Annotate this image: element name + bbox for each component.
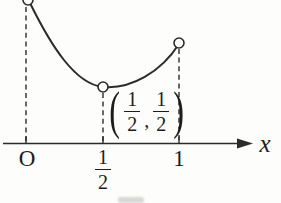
open-point-left-endpoint bbox=[23, 0, 33, 5]
close-paren: ) bbox=[174, 88, 185, 135]
tick-half-fraction: 1 2 bbox=[95, 147, 111, 192]
tick-label-one: 1 bbox=[169, 147, 189, 170]
point-y-numerator: 1 bbox=[153, 89, 169, 112]
point-y-denominator: 2 bbox=[156, 112, 166, 134]
function-graph-figure: O 1 2 1 x ( 1 2 , 1 2 ) bbox=[0, 0, 281, 203]
open-paren: ( bbox=[109, 88, 120, 135]
point-x-fraction: 1 2 bbox=[124, 89, 140, 134]
cutoff-caption-smudge bbox=[118, 197, 144, 203]
x-axis-arrowhead bbox=[237, 139, 253, 149]
tick-half-denominator: 2 bbox=[98, 170, 108, 192]
point-x-denominator: 2 bbox=[127, 112, 137, 134]
coordinate-comma: , bbox=[144, 109, 149, 132]
x-axis-label: x bbox=[253, 131, 277, 156]
origin-label: O bbox=[17, 147, 37, 170]
open-point-right-endpoint bbox=[174, 38, 184, 48]
function-curve bbox=[29, 1, 179, 87]
point-x-numerator: 1 bbox=[124, 89, 140, 112]
point-y-fraction: 1 2 bbox=[153, 89, 169, 134]
tick-label-half: 1 2 bbox=[92, 147, 114, 192]
tick-half-numerator: 1 bbox=[95, 147, 111, 170]
point-coordinates-label: ( 1 2 , 1 2 ) bbox=[106, 86, 188, 136]
